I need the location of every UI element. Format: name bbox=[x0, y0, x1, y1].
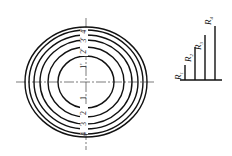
ring-label-4-prime: 4' bbox=[79, 28, 88, 34]
label-r3: R3 bbox=[193, 42, 204, 52]
radius-bars bbox=[180, 26, 222, 80]
ring-label-2: 2 bbox=[79, 111, 88, 115]
ring-label-4: 4 bbox=[79, 132, 88, 136]
ring-label-1: 1 bbox=[79, 96, 88, 100]
label-r4: R4 bbox=[203, 17, 214, 27]
ring-label-3: 3 bbox=[79, 122, 88, 126]
ring-label-1-prime: 1' bbox=[79, 63, 88, 69]
label-r2: R2 bbox=[183, 54, 194, 64]
diagram-canvas: 1' 2' 3' 4' 1 2 3 4 R1 R2 R3 R4 bbox=[0, 0, 232, 156]
ring-label-2-prime: 2' bbox=[79, 48, 88, 54]
radius-labels: R1 R2 R3 R4 bbox=[173, 17, 214, 82]
label-r1: R1 bbox=[173, 72, 184, 81]
ring-label-3-prime: 3' bbox=[79, 37, 88, 43]
